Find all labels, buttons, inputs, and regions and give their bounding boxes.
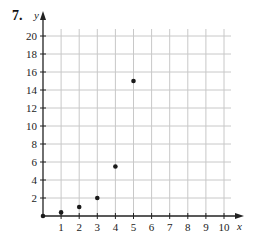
data-point — [77, 205, 82, 210]
y-tick-label: 10 — [26, 120, 38, 132]
data-point — [95, 196, 100, 201]
y-tick-label: 12 — [26, 102, 37, 114]
x-tick-label: 9 — [203, 221, 209, 233]
axis-ticks: 123456789102468101214161820 — [26, 30, 230, 233]
y-tick-label: 16 — [26, 66, 38, 78]
y-tick-label: 2 — [32, 192, 38, 204]
y-tick-label: 14 — [26, 84, 38, 96]
x-tick-label: 4 — [113, 221, 119, 233]
y-tick-label: 8 — [32, 138, 38, 150]
x-tick-label: 5 — [131, 221, 137, 233]
x-tick-label: 6 — [149, 221, 155, 233]
x-axis-arrow-icon — [235, 213, 244, 219]
y-tick-label: 18 — [26, 48, 38, 60]
data-point — [59, 210, 64, 215]
x-axis-label: x — [236, 220, 242, 232]
y-tick-label: 4 — [32, 174, 38, 186]
y-axis-arrow-icon — [40, 11, 46, 20]
scatter-chart: yx 123456789102468101214161820 — [0, 0, 254, 246]
x-tick-label: 3 — [95, 221, 101, 233]
data-point — [41, 214, 46, 219]
x-tick-label: 2 — [76, 221, 82, 233]
x-tick-label: 1 — [58, 221, 64, 233]
y-axis-label: y — [33, 9, 39, 21]
grid-lines — [43, 29, 231, 216]
data-point — [113, 164, 118, 169]
x-tick-label: 8 — [185, 221, 191, 233]
x-tick-label: 10 — [219, 221, 231, 233]
y-tick-label: 6 — [32, 156, 38, 168]
data-point — [131, 79, 136, 84]
data-points — [41, 79, 136, 219]
y-tick-label: 20 — [26, 30, 38, 42]
x-tick-label: 7 — [167, 221, 173, 233]
axes: yx — [33, 9, 244, 232]
